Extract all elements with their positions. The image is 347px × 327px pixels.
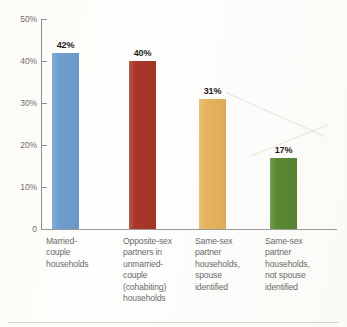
bar-fill xyxy=(270,158,297,229)
y-axis-tick-label: 30% xyxy=(3,99,37,108)
y-tick-label-wrap-40: 40% xyxy=(0,57,37,66)
category-label-line: households xyxy=(46,259,118,270)
bar-chart-plot: 50% 40% 30% 20% 10% 0 42% 40% xyxy=(0,0,347,327)
bar-fill xyxy=(52,53,79,229)
y-tick-40 xyxy=(41,61,47,62)
bar-opposite-sex-unmarried-couple[interactable]: 40% xyxy=(129,61,156,229)
category-label-line: households xyxy=(123,293,199,304)
category-label-line: identified xyxy=(195,282,265,293)
x-axis-baseline xyxy=(41,229,337,230)
category-label-line: households, xyxy=(265,259,339,270)
category-label-line: (cohabiting) xyxy=(123,282,199,293)
y-tick-label-wrap-50: 50% xyxy=(0,15,37,24)
y-tick-label-wrap-10: 10% xyxy=(0,183,37,192)
category-label-line: households, xyxy=(195,259,265,270)
category-label-line: Married- xyxy=(46,236,118,247)
category-label-line: couple xyxy=(46,247,118,258)
chart-page: 50% 40% 30% 20% 10% 0 42% 40% xyxy=(0,0,347,327)
bar-fill xyxy=(199,99,226,229)
category-label-line: partner xyxy=(195,247,265,258)
y-tick-label-wrap-0: 0 xyxy=(0,225,37,234)
y-tick-50 xyxy=(41,19,47,20)
y-tick-30 xyxy=(41,103,47,104)
category-label-opposite-sex-unmarried-couple: Opposite-sex partners in unmarried- coup… xyxy=(123,236,199,304)
category-label-line: Same-sex xyxy=(265,236,339,247)
bar-fill xyxy=(129,61,156,229)
y-tick-label-wrap-30: 30% xyxy=(0,99,37,108)
bar-value-label: 42% xyxy=(57,40,74,50)
bar-same-sex-not-spouse-identified[interactable]: 17% xyxy=(270,158,297,229)
y-tick-label-wrap-20: 20% xyxy=(0,141,37,150)
y-tick-20 xyxy=(41,145,47,146)
category-label-same-sex-spouse-identified: Same-sex partner households, spouse iden… xyxy=(195,236,265,293)
bar-married-couple-households[interactable]: 42% xyxy=(52,53,79,229)
y-axis-tick-label: 0 xyxy=(3,225,37,234)
bar-same-sex-spouse-identified[interactable]: 31% xyxy=(199,99,226,229)
category-label-line: not spouse xyxy=(265,270,339,281)
category-label-line: unmarried- xyxy=(123,259,199,270)
bar-value-label: 31% xyxy=(204,86,221,96)
y-axis-tick-label: 20% xyxy=(3,141,37,150)
category-label-line: partner xyxy=(265,247,339,258)
y-axis-line xyxy=(41,19,42,230)
category-label-line: spouse xyxy=(195,270,265,281)
page-bottom-rule xyxy=(8,322,339,323)
y-axis-tick-label: 50% xyxy=(3,15,37,24)
category-label-line: couple xyxy=(123,270,199,281)
category-label-line: partners in xyxy=(123,247,199,258)
y-tick-10 xyxy=(41,187,47,188)
category-label-line: Opposite-sex xyxy=(123,236,199,247)
y-axis-tick-label: 10% xyxy=(3,183,37,192)
category-label-same-sex-not-spouse-identified: Same-sex partner households, not spouse … xyxy=(265,236,339,293)
bar-value-label: 17% xyxy=(275,145,292,155)
category-label-married-couple-households: Married- couple households xyxy=(46,236,118,270)
y-axis-tick-label: 40% xyxy=(3,57,37,66)
bar-value-label: 40% xyxy=(134,48,151,58)
category-label-line: Same-sex xyxy=(195,236,265,247)
category-label-line: identified xyxy=(265,282,339,293)
